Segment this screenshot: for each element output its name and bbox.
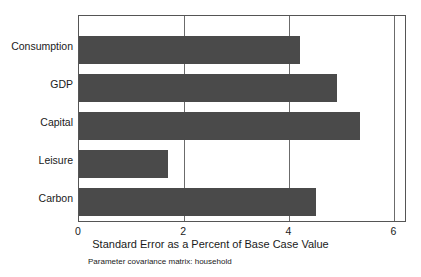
x-axis-title: Standard Error as a Percent of Base Case…: [0, 239, 421, 250]
x-tick-label: 0: [63, 226, 93, 237]
y-category-label: Capital: [0, 117, 73, 128]
chart-subtitle: Parameter covariance matrix: household: [88, 258, 232, 266]
bar-consumption: [79, 36, 300, 64]
bar-carbon: [79, 188, 316, 216]
y-category-label: Leisure: [0, 155, 73, 166]
x-tick-label: 2: [168, 226, 198, 237]
gridline-x-6: [394, 16, 395, 221]
y-category-label: Carbon: [0, 193, 73, 204]
bar-leisure: [79, 150, 168, 178]
plot-area: [78, 15, 406, 222]
y-category-label: Consumption: [0, 41, 73, 52]
x-tick-label: 4: [273, 226, 303, 237]
bar-chart-figure: Consumption GDP Capital Leisure Carbon 0…: [0, 0, 421, 277]
bar-capital: [79, 112, 360, 140]
x-tick-label: 6: [378, 226, 408, 237]
y-category-label: GDP: [0, 79, 73, 90]
bar-gdp: [79, 74, 337, 102]
